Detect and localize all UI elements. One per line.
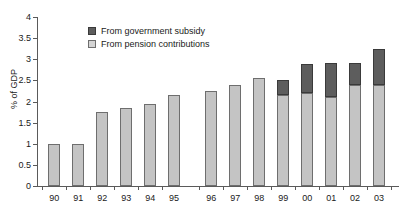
x-tick-mark: [199, 186, 200, 190]
bar-segment-pension-contributions: [301, 93, 313, 186]
bar-segment-pension-contributions: [253, 78, 265, 186]
legend-label-pension-contributions: From pension contributions: [101, 39, 210, 49]
y-tick-mark: [33, 38, 37, 39]
y-tick-mark: [33, 186, 37, 187]
bar-97: [229, 85, 241, 186]
legend-swatch-government-subsidy: [88, 27, 96, 35]
x-tick-label-92: 92: [97, 193, 107, 203]
y-tick-mark: [33, 17, 37, 18]
bar-segment-government-subsidy: [373, 49, 385, 85]
x-tick-mark: [295, 186, 296, 190]
legend-swatch-pension-contributions: [88, 40, 96, 48]
bar-segment-pension-contributions: [205, 91, 217, 186]
y-tick-mark: [33, 59, 37, 60]
y-tick-label: 3: [26, 54, 31, 64]
x-tick-mark: [42, 186, 43, 190]
chart-container: % of GDP 00.511.522.533.54 9091929394959…: [0, 0, 403, 221]
x-tick-mark: [319, 186, 320, 190]
bar-92: [96, 112, 108, 186]
x-tick-label-94: 94: [145, 193, 155, 203]
x-tick-label-99: 99: [278, 193, 288, 203]
y-tick-label: 1: [26, 139, 31, 149]
bar-segment-government-subsidy: [301, 64, 313, 94]
bar-segment-government-subsidy: [325, 63, 337, 97]
y-tick-label: 2.5: [18, 75, 31, 85]
x-tick-label-01: 01: [326, 193, 336, 203]
x-tick-label-02: 02: [350, 193, 360, 203]
bar-segment-pension-contributions: [120, 108, 132, 186]
legend-label-government-subsidy: From government subsidy: [101, 26, 205, 36]
x-tick-label-00: 00: [302, 193, 312, 203]
bar-94: [144, 104, 156, 186]
x-tick-mark: [223, 186, 224, 190]
bar-segment-government-subsidy: [277, 80, 289, 95]
bar-00: [301, 63, 313, 186]
bar-segment-pension-contributions: [144, 104, 156, 186]
bar-99: [277, 80, 289, 186]
y-tick-mark: [33, 165, 37, 166]
x-tick-mark: [391, 186, 392, 190]
x-tick-mark: [138, 186, 139, 190]
x-tick-label-90: 90: [49, 193, 59, 203]
bar-96: [205, 91, 217, 186]
bar-93: [120, 108, 132, 186]
y-tick-mark: [33, 102, 37, 103]
y-tick-label: 0: [26, 181, 31, 191]
legend-item-pension-contributions: From pension contributions: [88, 39, 210, 49]
y-tick-mark: [33, 80, 37, 81]
bar-segment-pension-contributions: [168, 95, 180, 186]
bar-segment-pension-contributions: [277, 95, 289, 186]
y-tick-label: 2: [26, 97, 31, 107]
x-tick-label-96: 96: [206, 193, 216, 203]
bar-segment-pension-contributions: [229, 85, 241, 186]
x-axis-line: [37, 186, 399, 187]
bar-02: [349, 63, 361, 186]
bar-segment-pension-contributions: [373, 85, 385, 186]
bar-98: [253, 78, 265, 186]
x-tick-mark: [66, 186, 67, 190]
y-axis-line: [37, 17, 38, 186]
bar-segment-pension-contributions: [349, 85, 361, 186]
x-tick-mark: [343, 186, 344, 190]
bar-91: [72, 144, 84, 186]
legend-item-government-subsidy: From government subsidy: [88, 26, 210, 36]
x-tick-mark: [90, 186, 91, 190]
bar-segment-pension-contributions: [96, 112, 108, 186]
y-tick-label: 0.5: [18, 160, 31, 170]
y-tick-mark: [33, 144, 37, 145]
bar-01: [325, 63, 337, 186]
x-tick-label-98: 98: [254, 193, 264, 203]
y-axis-title: % of GDP: [9, 51, 19, 127]
y-tick-label: 4: [26, 12, 31, 22]
x-tick-label-97: 97: [230, 193, 240, 203]
y-tick-label: 1.5: [18, 118, 31, 128]
bar-90: [48, 144, 60, 186]
y-tick-label: 3.5: [18, 33, 31, 43]
x-tick-mark: [367, 186, 368, 190]
x-tick-label-93: 93: [121, 193, 131, 203]
bar-segment-pension-contributions: [72, 144, 84, 186]
x-tick-mark: [114, 186, 115, 190]
x-tick-label-03: 03: [374, 193, 384, 203]
x-tick-label-95: 95: [169, 193, 179, 203]
x-tick-mark: [271, 186, 272, 190]
bar-segment-pension-contributions: [48, 144, 60, 186]
y-tick-mark: [33, 123, 37, 124]
bar-03: [373, 49, 385, 186]
bar-segment-government-subsidy: [349, 63, 361, 84]
x-tick-label-91: 91: [73, 193, 83, 203]
bar-95: [168, 95, 180, 186]
chart-legend: From government subsidy From pension con…: [88, 26, 210, 52]
bar-segment-pension-contributions: [325, 97, 337, 186]
x-tick-mark: [162, 186, 163, 190]
x-tick-mark: [247, 186, 248, 190]
